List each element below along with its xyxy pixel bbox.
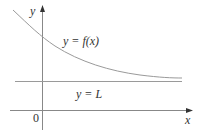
asymptote-diagram: y x 0 y = f(x) y = L [0,0,202,134]
y-axis-arrow-icon [40,5,45,12]
y-axis-label: y [29,4,36,18]
x-axis-label: x [184,113,191,127]
curve-label: y = f(x) [62,34,99,48]
origin-label: 0 [33,111,39,125]
asymptote-label: y = L [75,87,102,101]
